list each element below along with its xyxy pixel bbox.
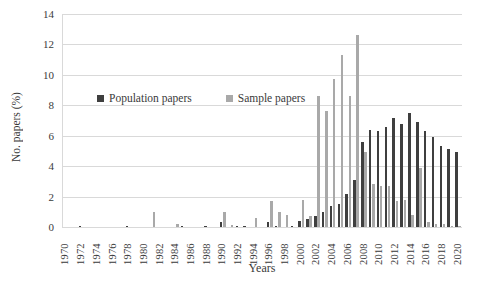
x-tick-label-1986: 1986: [185, 231, 197, 265]
bar-population-1992: [236, 226, 239, 228]
bar-sample-2010: [380, 186, 383, 227]
bar-sample-2015: [419, 168, 422, 227]
legend-item-population: Population papers: [97, 92, 192, 104]
gridline: [62, 75, 462, 76]
x-tick-label-1998: 1998: [279, 231, 291, 265]
x-tick-label-2018: 2018: [436, 231, 448, 265]
bar-sample-2011: [388, 186, 391, 227]
x-tick-label-1978: 1978: [122, 231, 134, 265]
bar-sample-2000: [302, 200, 305, 227]
y-axis-line: [62, 14, 63, 227]
bar-population-2014: [408, 113, 411, 227]
x-tick-label-1996: 1996: [263, 231, 275, 265]
bar-sample-2016: [427, 222, 430, 227]
y-tick-label: 2: [26, 191, 54, 203]
x-tick-label-1976: 1976: [107, 231, 119, 265]
bar-sample-2014: [411, 215, 414, 227]
bar-sample-1991: [231, 225, 234, 227]
bar-population-1993: [243, 226, 246, 228]
bar-sample-2002: [317, 96, 320, 227]
bar-sample-2007: [356, 35, 359, 227]
x-tick-label-1990: 1990: [216, 231, 228, 265]
bar-sample-2020: [458, 226, 461, 228]
bar-sample-2004: [333, 79, 336, 227]
y-tick-label: 12: [26, 38, 54, 50]
bar-population-1972: [79, 226, 82, 228]
x-tick-label-2000: 2000: [295, 231, 307, 265]
bar-population-2019: [447, 149, 450, 227]
x-tick-label-1992: 1992: [232, 231, 244, 265]
bar-population-1999: [291, 226, 294, 228]
x-tick-label-1974: 1974: [91, 231, 103, 265]
x-tick-label-1982: 1982: [154, 231, 166, 265]
x-tick-label-2010: 2010: [373, 231, 385, 265]
gridline: [62, 14, 462, 15]
gridline: [62, 105, 462, 106]
bar-population-1996: [267, 222, 270, 227]
bar-sample-2017: [435, 224, 438, 227]
y-tick-label: 0: [26, 221, 54, 233]
bar-population-2007: [353, 180, 356, 227]
bar-population-2018: [440, 146, 443, 227]
y-tick-label: 4: [26, 160, 54, 172]
x-tick-label-1970: 1970: [59, 231, 71, 265]
bar-sample-1994: [255, 218, 258, 227]
bar-sample-2006: [349, 96, 352, 227]
x-tick-label-1994: 1994: [248, 231, 260, 265]
x-tick-label-2020: 2020: [452, 231, 464, 265]
legend-label-sample: Sample papers: [238, 92, 305, 104]
x-tick-label-1972: 1972: [75, 231, 87, 265]
y-axis-title: No. papers (%): [10, 72, 24, 182]
x-tick-label-1988: 1988: [201, 231, 213, 265]
bar-population-2000: [298, 221, 301, 227]
bar-sample-2018: [443, 224, 446, 227]
bar-chart: No. papers (%) Years Population papers S…: [0, 0, 481, 283]
bar-population-1978: [126, 226, 129, 228]
bar-population-2006: [345, 194, 348, 228]
y-tick-label: 6: [26, 130, 54, 142]
bar-sample-2009: [372, 184, 375, 227]
sample-swatch-icon: [226, 95, 233, 102]
x-tick-label-2002: 2002: [310, 231, 322, 265]
x-axis-line: [62, 227, 462, 228]
bar-population-1997: [275, 226, 278, 228]
legend: Population papers Sample papers: [97, 92, 305, 104]
bar-sample-2019: [451, 226, 454, 228]
x-tick-label-2004: 2004: [326, 231, 338, 265]
x-tick-label-1984: 1984: [169, 231, 181, 265]
bar-population-2011: [385, 127, 388, 227]
bar-population-1988: [204, 226, 207, 228]
bar-population-1990: [220, 222, 223, 227]
bar-sample-1996: [270, 201, 273, 227]
bar-population-2013: [400, 124, 403, 228]
bar-sample-1984: [176, 224, 179, 227]
bar-sample-1998: [286, 215, 289, 227]
y-tick-label: 14: [26, 8, 54, 20]
legend-label-population: Population papers: [109, 92, 192, 104]
bar-population-2004: [330, 206, 333, 227]
bar-sample-1997: [278, 212, 281, 227]
population-swatch-icon: [97, 95, 104, 102]
bar-population-2017: [432, 137, 435, 227]
legend-item-sample: Sample papers: [226, 92, 305, 104]
bar-population-2020: [455, 152, 458, 227]
bar-population-2003: [322, 212, 325, 227]
x-tick-label-2008: 2008: [358, 231, 370, 265]
x-tick-label-2016: 2016: [420, 231, 432, 265]
bar-sample-2008: [364, 152, 367, 227]
bar-population-2016: [424, 131, 427, 227]
bar-population-2001: [306, 219, 309, 227]
bar-sample-2003: [325, 111, 328, 227]
x-tick-label-1980: 1980: [138, 231, 150, 265]
bar-population-2010: [377, 131, 380, 227]
bar-sample-2013: [404, 200, 407, 227]
bar-sample-1990: [223, 212, 226, 227]
bar-population-2012: [392, 118, 395, 228]
bar-population-2008: [361, 142, 364, 227]
x-tick-label-2006: 2006: [342, 231, 354, 265]
bar-sample-2005: [341, 55, 344, 227]
y-tick-label: 10: [26, 69, 54, 81]
x-tick-label-2012: 2012: [389, 231, 401, 265]
y-tick-label: 8: [26, 99, 54, 111]
x-tick-label-2014: 2014: [405, 231, 417, 265]
